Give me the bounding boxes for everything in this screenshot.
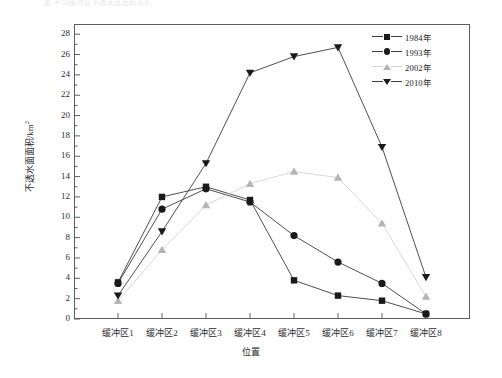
circle-marker [372, 46, 402, 58]
legend-marker-glyph [383, 79, 391, 85]
legend-item-1984年: 1984年 [372, 29, 464, 44]
chart-figure: 图 不同缓冲区不透水面面积变化 024681012141618202224262… [0, 0, 502, 378]
legend-item-1993年: 1993年 [372, 44, 464, 59]
legend-item-2002年: 2002年 [372, 59, 464, 74]
legend-label: 2002年 [405, 61, 432, 73]
chart-legend: 1984年1993年2002年2010年 [372, 29, 464, 89]
legend-label: 1993年 [405, 46, 432, 58]
legend-label: 1984年 [405, 31, 432, 43]
square-marker [372, 31, 402, 43]
legend-item-2010年: 2010年 [372, 74, 464, 89]
legend-marker-glyph [384, 48, 391, 55]
x-axis-label: 位置 [0, 345, 502, 358]
triangle-up-marker [372, 61, 402, 73]
legend-marker-glyph [383, 64, 391, 70]
triangle-down-marker [372, 76, 402, 88]
legend-label: 2010年 [405, 76, 432, 88]
x-tick-label-8: 缓冲区8 [389, 326, 463, 339]
legend-marker-glyph [384, 34, 390, 40]
